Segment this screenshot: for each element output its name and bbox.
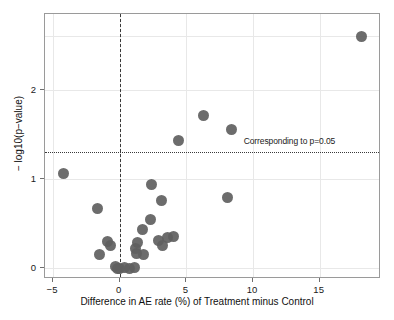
data-point [356, 31, 367, 42]
data-point [92, 203, 103, 214]
null-effect-vline [120, 14, 121, 277]
gridline-vertical [186, 14, 187, 277]
x-tick-label: 5 [183, 284, 188, 295]
y-tick-mark [40, 267, 44, 268]
x-tick-mark [52, 278, 53, 282]
x-tick-label: 15 [313, 284, 324, 295]
data-point [58, 168, 69, 179]
data-point [138, 249, 149, 260]
data-point [94, 249, 105, 260]
x-tick-label: −5 [47, 284, 58, 295]
x-axis-title: Difference in AE rate (%) of Treatment m… [0, 296, 394, 307]
gridline-horizontal [45, 179, 379, 180]
x-tick-mark [185, 278, 186, 282]
gridline-vertical [53, 14, 54, 277]
gridline-horizontal [45, 268, 379, 269]
data-point [145, 214, 156, 225]
y-tick-label: 0 [18, 262, 36, 273]
data-point [146, 179, 157, 190]
gridline-horizontal [45, 90, 379, 91]
volcano-plot-figure: Corresponding to p=0.05 −5051015 012 Dif… [0, 0, 394, 320]
data-point [173, 135, 184, 146]
gridline-horizontal [45, 36, 379, 37]
x-tick-label: 0 [116, 284, 121, 295]
data-point [137, 224, 148, 235]
data-point [226, 124, 237, 135]
data-point [222, 192, 233, 203]
data-point [129, 262, 140, 273]
x-tick-mark [319, 278, 320, 282]
y-axis-title: − log10(p−value) [13, 54, 24, 214]
data-point [105, 240, 116, 251]
x-tick-label: 10 [247, 284, 258, 295]
plot-area: Corresponding to p=0.05 [44, 13, 380, 278]
data-point [198, 110, 209, 121]
significance-line-label: Corresponding to p=0.05 [244, 136, 336, 146]
x-tick-mark [252, 278, 253, 282]
significance-hline [45, 152, 379, 153]
data-point [112, 263, 123, 274]
y-tick-mark [40, 89, 44, 90]
data-point [156, 195, 167, 206]
x-tick-mark [119, 278, 120, 282]
y-tick-mark [40, 178, 44, 179]
data-point [157, 240, 168, 251]
